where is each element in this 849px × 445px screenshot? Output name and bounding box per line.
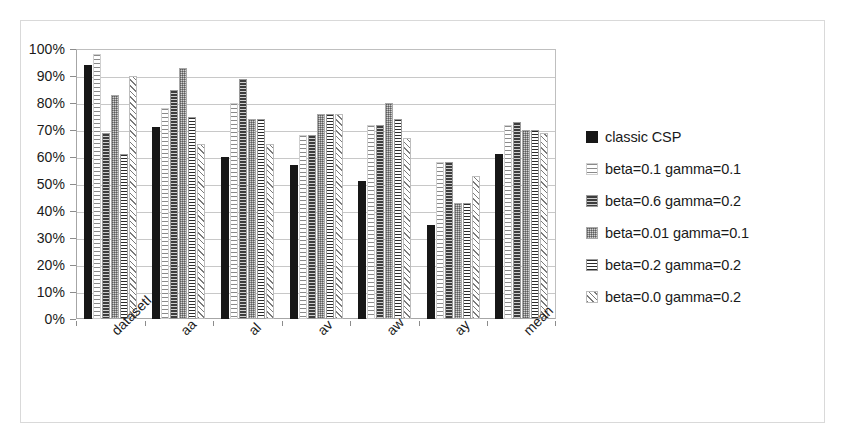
bar[interactable] — [504, 125, 512, 319]
bar-group — [350, 49, 419, 319]
x-axis-category: datasetI — [76, 321, 145, 391]
x-axis-tick-mark — [282, 321, 283, 326]
bar[interactable] — [120, 154, 128, 319]
bar-group — [145, 49, 214, 319]
legend-swatch-icon — [586, 259, 598, 271]
bar[interactable] — [170, 90, 178, 320]
legend-swatch-icon — [586, 291, 598, 303]
y-axis-tick-label: 10% — [37, 284, 65, 300]
bar[interactable] — [93, 54, 101, 319]
bar[interactable] — [161, 108, 169, 319]
bar[interactable] — [403, 138, 411, 319]
x-axis-category: al — [213, 321, 282, 391]
bar[interactable] — [111, 95, 119, 319]
bar[interactable] — [463, 203, 471, 319]
bar-group — [487, 49, 556, 319]
legend-swatch-icon — [586, 227, 598, 239]
bar[interactable] — [84, 65, 92, 319]
x-axis-tick-mark — [419, 321, 420, 326]
x-axis-category: aw — [350, 321, 419, 391]
bar[interactable] — [299, 135, 307, 319]
legend-item[interactable]: beta=0.01 gamma=0.1 — [586, 217, 821, 249]
bar-groups — [76, 49, 556, 319]
y-axis-tick-label: 60% — [37, 149, 65, 165]
bar[interactable] — [290, 165, 298, 319]
legend-item-label: beta=0.0 gamma=0.2 — [605, 289, 741, 305]
legend-item[interactable]: beta=0.1 gamma=0.1 — [586, 153, 821, 185]
x-axis-tick-mark — [555, 321, 556, 326]
y-axis-tick-mark — [70, 319, 76, 320]
bar[interactable] — [326, 114, 334, 319]
y-axis: 100%90%80%70%60%50%40%30%20%10%0% — [21, 41, 73, 327]
chart-legend: classic CSPbeta=0.1 gamma=0.1beta=0.6 ga… — [586, 121, 821, 313]
y-axis-tick-label: 100% — [29, 41, 65, 57]
bar[interactable] — [248, 119, 256, 319]
bar-group — [419, 49, 488, 319]
bar[interactable] — [188, 117, 196, 320]
y-axis-tick-label: 0% — [45, 311, 65, 327]
bar[interactable] — [427, 225, 435, 320]
bar[interactable] — [266, 144, 274, 320]
bar[interactable] — [197, 144, 205, 320]
x-axis-tick-label: ay — [451, 317, 473, 339]
bar[interactable] — [129, 76, 137, 319]
bar[interactable] — [531, 130, 539, 319]
legend-swatch-icon — [586, 195, 598, 207]
bar[interactable] — [513, 122, 521, 319]
y-axis-tick-label: 40% — [37, 203, 65, 219]
bar[interactable] — [335, 114, 343, 319]
bar[interactable] — [230, 103, 238, 319]
legend-item-label: beta=0.01 gamma=0.1 — [605, 225, 749, 241]
bar[interactable] — [367, 125, 375, 319]
bar[interactable] — [308, 135, 316, 319]
x-axis-tick-label: aa — [177, 316, 199, 338]
y-axis-tick-label: 90% — [37, 68, 65, 84]
legend-item[interactable]: beta=0.2 gamma=0.2 — [586, 249, 821, 281]
bar[interactable] — [436, 162, 444, 319]
legend-swatch-icon — [586, 163, 598, 175]
y-axis-tick-label: 20% — [37, 257, 65, 273]
legend-item-label: beta=0.2 gamma=0.2 — [605, 257, 741, 273]
bar[interactable] — [358, 181, 366, 319]
bar[interactable] — [394, 119, 402, 319]
x-axis-tick-mark — [145, 321, 146, 326]
bar[interactable] — [376, 125, 384, 319]
x-axis-category: mean — [487, 321, 556, 391]
bar[interactable] — [522, 130, 530, 319]
bar[interactable] — [540, 133, 548, 319]
bar[interactable] — [152, 127, 160, 319]
bar[interactable] — [454, 203, 462, 319]
y-axis-tick-label: 30% — [37, 230, 65, 246]
x-axis-tick-mark — [487, 321, 488, 326]
legend-item-label: classic CSP — [605, 129, 681, 145]
chart-frame: 100%90%80%70%60%50%40%30%20%10%0% datase… — [20, 20, 825, 423]
bar[interactable] — [239, 79, 247, 319]
bar[interactable] — [102, 133, 110, 319]
bar-chart: 100%90%80%70%60%50%40%30%20%10%0% datase… — [21, 21, 826, 424]
bar[interactable] — [317, 114, 325, 319]
bar[interactable] — [495, 154, 503, 319]
bar-group — [76, 49, 145, 319]
legend-item-label: beta=0.1 gamma=0.1 — [605, 161, 741, 177]
bar[interactable] — [221, 157, 229, 319]
legend-item[interactable]: beta=0.0 gamma=0.2 — [586, 281, 821, 313]
bar[interactable] — [385, 103, 393, 319]
x-axis: datasetIaaalavawaymean — [76, 321, 556, 391]
x-axis-tick-mark — [350, 321, 351, 326]
bar[interactable] — [257, 119, 265, 319]
bar[interactable] — [472, 176, 480, 319]
bar-group — [213, 49, 282, 319]
x-axis-tick-mark — [213, 321, 214, 326]
x-axis-tick-label: av — [314, 317, 336, 339]
legend-item[interactable]: beta=0.6 gamma=0.2 — [586, 185, 821, 217]
y-axis-tick-label: 70% — [37, 122, 65, 138]
y-axis-tick-label: 50% — [37, 176, 65, 192]
x-axis-tick-mark — [76, 321, 77, 326]
x-axis-category: aa — [145, 321, 214, 391]
x-axis-tick-label: al — [245, 319, 264, 338]
bar[interactable] — [445, 162, 453, 319]
legend-item-label: beta=0.6 gamma=0.2 — [605, 193, 741, 209]
bar-group — [282, 49, 351, 319]
bar[interactable] — [179, 68, 187, 319]
legend-item[interactable]: classic CSP — [586, 121, 821, 153]
